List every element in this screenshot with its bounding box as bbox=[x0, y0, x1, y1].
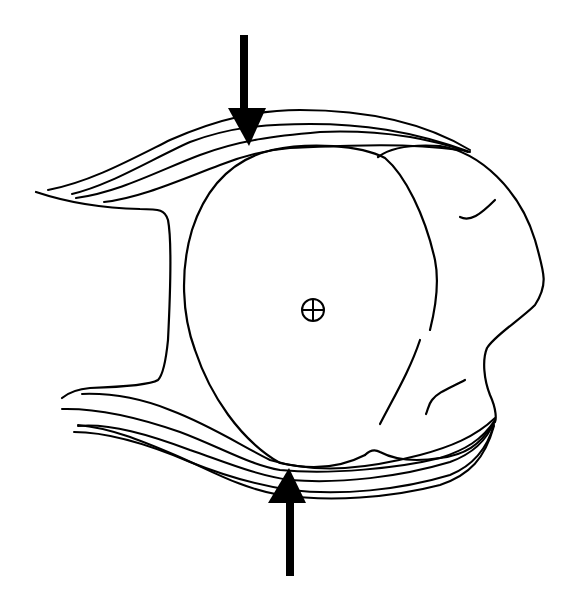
upper-fiber-band bbox=[48, 110, 470, 202]
bottom-force-arrow-icon bbox=[268, 468, 306, 576]
center-marker-icon bbox=[302, 299, 324, 321]
diagram-canvas: ⊕ bbox=[0, 0, 576, 597]
left-stalk bbox=[36, 192, 170, 398]
compression-diagram bbox=[0, 0, 576, 597]
round-body bbox=[184, 146, 437, 467]
lobed-mass bbox=[365, 145, 544, 460]
lower-fiber-band bbox=[62, 394, 495, 499]
